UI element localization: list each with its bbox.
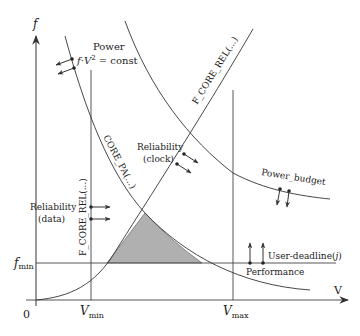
rel-clock-arrow-1 — [184, 154, 198, 163]
origin-label: 0 — [23, 308, 30, 321]
rel-clock-arrow-2 — [177, 164, 191, 173]
core-pa-label: CORE_PA(...) — [100, 133, 138, 191]
budget-arrow-1 — [277, 189, 280, 205]
power-arrow-1 — [56, 59, 72, 65]
y-axis-label: f — [32, 17, 40, 31]
user-deadline-label: User-deadline(j) — [268, 251, 342, 261]
reliability-data-line1: Reliability — [30, 202, 77, 212]
performance-label: Performance — [246, 267, 304, 277]
budget-arrow-2 — [287, 191, 289, 207]
power-title: Power — [93, 41, 125, 52]
f-min-label: fmin — [13, 256, 34, 271]
f-core-rel-data-label: F_CORE_REL(...) — [78, 178, 89, 256]
feasible-region — [107, 213, 202, 263]
constraint-diagram: f V 0 fmin Vmin Vmax Power f·V2 = const … — [0, 0, 360, 336]
x-axis-label: V — [333, 284, 343, 297]
v-min-label: Vmin — [80, 304, 104, 320]
power-budget-label: Power_budget — [261, 167, 327, 188]
reliability-data-line2: (data) — [38, 214, 65, 224]
reliability-clock-line1: Reliability — [137, 142, 184, 152]
reliability-clock-line2: (clock) — [143, 154, 174, 164]
v-max-label: Vmax — [223, 304, 249, 320]
power-formula: f·V2 = const — [76, 54, 138, 66]
power-arrow-2 — [58, 68, 74, 74]
